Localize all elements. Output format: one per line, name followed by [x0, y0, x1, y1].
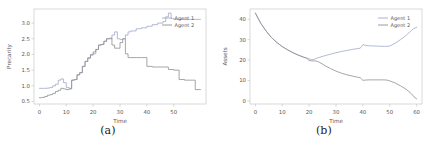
- x-tick-label: 20: [306, 109, 313, 115]
- x-tick-label: 50: [170, 109, 177, 115]
- subfigure-b: 0102030405060010203040TimeAssetsAgent 1A…: [216, 0, 432, 149]
- y-axis-title: Precarity: [6, 43, 13, 68]
- y-tick-label: 20: [239, 57, 246, 63]
- x-tick-label: 10: [63, 109, 70, 115]
- y-tick-label: 2.5: [21, 36, 30, 42]
- y-tick-label: 3.0: [21, 20, 30, 26]
- figure-container: 010203040500.51.01.52.02.53.0TimePrecari…: [0, 0, 432, 149]
- subfigure-a: 010203040500.51.01.52.02.53.0TimePrecari…: [0, 0, 216, 149]
- y-axis-title: Assets: [222, 47, 228, 65]
- x-tick-label: 60: [413, 109, 420, 115]
- y-tick-label: 0: [243, 98, 247, 104]
- legend-label-2: Agent 2: [175, 22, 195, 29]
- y-tick-label: 10: [239, 77, 246, 83]
- legend-label-2: Agent 2: [391, 22, 411, 29]
- y-tick-label: 30: [239, 37, 246, 43]
- x-tick-label: 30: [333, 109, 340, 115]
- legend-label-1: Agent 1: [391, 15, 411, 22]
- y-tick-label: 40: [239, 16, 246, 22]
- x-tick-label: 0: [254, 109, 258, 115]
- x-tick-label: 40: [143, 109, 150, 115]
- x-tick-label: 40: [359, 109, 366, 115]
- plot-a: 010203040500.51.01.52.02.53.0TimePrecari…: [0, 0, 216, 128]
- caption-b: (b): [216, 124, 432, 137]
- x-tick-label: 0: [38, 109, 42, 115]
- x-tick-label: 10: [279, 109, 286, 115]
- x-tick-label: 20: [90, 109, 97, 115]
- y-tick-label: 0.5: [21, 98, 30, 104]
- chart-a-svg: 010203040500.51.01.52.02.53.0TimePrecari…: [0, 0, 216, 128]
- chart-b-svg: 0102030405060010203040TimeAssetsAgent 1A…: [216, 0, 432, 128]
- legend-label-1: Agent 1: [175, 15, 195, 22]
- y-tick-label: 1.5: [21, 67, 30, 73]
- x-tick-label: 50: [386, 109, 393, 115]
- caption-a: (a): [0, 124, 216, 137]
- x-tick-label: 30: [117, 109, 124, 115]
- plot-b: 0102030405060010203040TimeAssetsAgent 1A…: [216, 0, 432, 128]
- y-tick-label: 1.0: [21, 83, 30, 89]
- y-tick-label: 2.0: [21, 51, 30, 57]
